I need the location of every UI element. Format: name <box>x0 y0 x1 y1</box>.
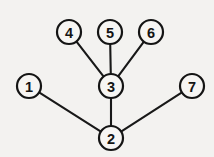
edge-1-2 <box>38 92 101 132</box>
edge-5-3 <box>110 43 111 75</box>
edge-2-7 <box>120 92 182 132</box>
node-4[interactable]: 4 <box>57 20 81 44</box>
node-label-3: 3 <box>107 79 115 95</box>
figure-root: 1234567 <box>0 0 214 157</box>
node-label-5: 5 <box>106 25 114 41</box>
graph-diagram: 1234567 <box>0 0 214 157</box>
node-6[interactable]: 6 <box>139 20 163 44</box>
node-3[interactable]: 3 <box>99 74 123 98</box>
node-label-2: 2 <box>107 131 115 147</box>
edge-6-3 <box>118 41 145 77</box>
node-5[interactable]: 5 <box>98 20 122 44</box>
node-label-4: 4 <box>65 25 73 41</box>
nodes-layer: 1234567 <box>17 20 204 150</box>
node-label-7: 7 <box>188 79 196 95</box>
node-2[interactable]: 2 <box>99 126 123 150</box>
node-label-6: 6 <box>147 25 155 41</box>
node-7[interactable]: 7 <box>180 74 204 98</box>
node-1[interactable]: 1 <box>17 74 41 98</box>
node-label-1: 1 <box>25 79 33 95</box>
edge-4-3 <box>76 41 105 78</box>
